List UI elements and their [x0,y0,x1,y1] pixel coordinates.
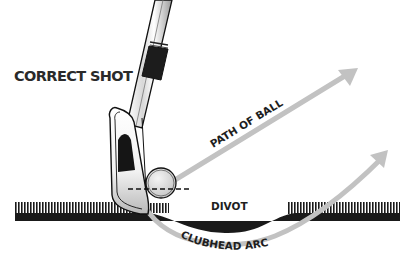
path-of-ball-label: PATH OF BALL [208,96,285,150]
grass-turf-right [287,202,400,214]
divot-label: DIVOT [211,200,248,212]
diagram-canvas: PATH OF BALL DIVOT CLUBHEAD ARC [0,0,416,259]
golf-ball [146,168,176,198]
diagram-title: CORRECT SHOT [14,68,132,84]
golf-shot-diagram: PATH OF BALL DIVOT CLUBHEAD ARC CORRECT … [0,0,416,259]
clubhead-arc-arrow [145,150,388,245]
ball-path-arrow [170,68,358,183]
ground-divot [15,213,400,233]
